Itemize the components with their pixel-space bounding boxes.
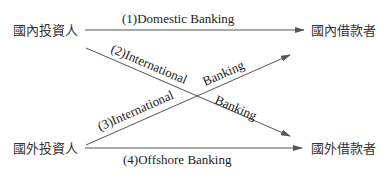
label-flow-1: (1)Domestic Banking: [122, 11, 235, 26]
node-foreign-borrower: 國外借款者: [311, 141, 376, 156]
label-flow-2-part2: Banking: [213, 92, 260, 123]
node-domestic-borrower: 國內借款者: [311, 23, 376, 38]
node-domestic-investor: 國內投資人: [13, 23, 78, 38]
banking-flow-diagram: 國內投資人 國外投資人 國內借款者 國外借款者 (1)Domestic Bank…: [0, 0, 388, 183]
label-flow-2-part1: (2)International: [109, 41, 190, 87]
arrow-international-banking-3: [86, 55, 290, 145]
node-foreign-investor: 國外投資人: [13, 141, 78, 156]
label-flow-4: (4)Offshore Banking: [123, 152, 232, 167]
